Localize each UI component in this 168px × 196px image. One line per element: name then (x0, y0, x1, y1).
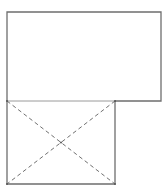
upper-rectangle (7, 12, 161, 101)
diagram-canvas (0, 0, 168, 196)
corner-dot (6, 183, 8, 185)
corner-dot (6, 100, 8, 102)
center-dot (60, 142, 62, 144)
corner-dot (114, 183, 116, 185)
corner-dot (114, 100, 116, 102)
